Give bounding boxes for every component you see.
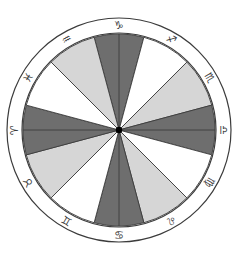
zodiac-glyph-aries: ♈ xyxy=(8,125,21,135)
zodiac-glyph-cancer: ♋ xyxy=(114,228,124,241)
zodiac-glyph-capricorn: ♑ xyxy=(114,19,124,32)
zodiac-glyph-libra: ♎ xyxy=(217,125,230,135)
zodiac-wheel-svg: ♑♐♏♎♍♌♋♊♉♈♓♒ xyxy=(0,0,239,258)
zodiac-wheel-figure: ♑♐♏♎♍♌♋♊♉♈♓♒ xyxy=(0,0,239,258)
center-dot xyxy=(116,127,122,133)
wheel-center-dot xyxy=(116,127,122,133)
